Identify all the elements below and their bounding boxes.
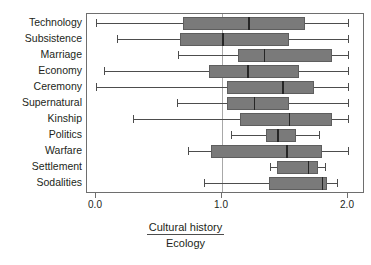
median-line: [282, 81, 284, 94]
box-iqr: [240, 113, 332, 126]
whisker-lower: [104, 71, 210, 72]
whisker-cap-lower: [177, 99, 178, 107]
boxplot-row-settlement: [87, 159, 363, 175]
whisker-upper: [332, 119, 348, 120]
whisker-cap-lower: [188, 147, 189, 155]
boxplot-row-supernatural: [87, 95, 363, 111]
category-label-subsistence: Subsistence: [0, 32, 82, 44]
boxplot-row-sodalities: [87, 175, 363, 191]
category-label-kinship: Kinship: [0, 112, 82, 124]
category-label-sodalities: Sodalities: [0, 176, 82, 188]
whisker-lower: [188, 151, 211, 152]
whisker-upper: [314, 87, 348, 88]
x-tick-label-1.0: 1.0: [214, 199, 228, 210]
whisker-cap-upper: [348, 99, 349, 107]
whisker-cap-upper: [348, 83, 349, 91]
category-label-ceremony: Ceremony: [0, 80, 82, 92]
x-tick-label-2.0: 2.0: [340, 199, 354, 210]
whisker-upper: [318, 167, 326, 168]
median-line: [308, 161, 310, 174]
median-line: [277, 129, 279, 142]
x-tick-0.0: [95, 193, 96, 198]
box-iqr: [227, 97, 289, 110]
whisker-lower: [178, 55, 238, 56]
median-line: [222, 33, 224, 46]
whisker-upper: [332, 55, 348, 56]
whisker-cap-lower: [178, 51, 179, 59]
axis-title-fraction: Cultural history Ecology: [147, 221, 224, 249]
whisker-cap-upper: [348, 35, 349, 43]
median-line: [247, 65, 249, 78]
category-label-politics: Politics: [0, 128, 82, 140]
box-iqr: [183, 17, 305, 30]
whisker-cap-upper: [348, 51, 349, 59]
whisker-cap-upper: [348, 147, 349, 155]
whisker-cap-lower: [96, 83, 97, 91]
whisker-upper: [305, 23, 348, 24]
whisker-cap-upper: [348, 19, 349, 27]
whisker-upper: [289, 103, 348, 104]
median-line: [286, 145, 288, 158]
boxplot-row-warfare: [87, 143, 363, 159]
boxplot-row-marriage: [87, 47, 363, 63]
median-line: [254, 97, 256, 110]
whisker-lower: [96, 23, 183, 24]
axis-title-denominator: Ecology: [147, 235, 224, 249]
box-iqr: [227, 81, 314, 94]
median-line: [322, 177, 324, 190]
median-line: [289, 113, 291, 126]
whisker-cap-upper: [348, 115, 349, 123]
x-tick-2.0: [347, 193, 348, 198]
whisker-cap-upper: [325, 163, 326, 171]
x-axis-title: Cultural history Ecology: [0, 221, 371, 251]
whisker-upper: [327, 183, 337, 184]
boxplot-row-subsistence: [87, 31, 363, 47]
category-label-warfare: Warfare: [0, 144, 82, 156]
whisker-upper: [296, 135, 319, 136]
whisker-cap-lower: [270, 163, 271, 171]
whisker-lower: [270, 167, 278, 168]
x-tick-label-0.0: 0.0: [88, 199, 102, 210]
box-iqr: [209, 65, 298, 78]
x-tick-1.0: [221, 193, 222, 198]
category-axis-labels: TechnologySubsistenceMarriageEconomyCere…: [0, 14, 82, 190]
boxplot-row-politics: [87, 127, 363, 143]
box-iqr: [238, 49, 331, 62]
whisker-cap-lower: [133, 115, 134, 123]
whisker-cap-lower: [117, 35, 118, 43]
whisker-cap-lower: [96, 19, 97, 27]
whisker-cap-lower: [104, 67, 105, 75]
whisker-lower: [96, 87, 227, 88]
box-iqr: [211, 145, 322, 158]
whisker-upper: [289, 39, 348, 40]
box-iqr: [269, 177, 327, 190]
whisker-cap-lower: [204, 179, 205, 187]
boxplot-row-economy: [87, 63, 363, 79]
category-label-technology: Technology: [0, 16, 82, 28]
boxplot-row-ceremony: [87, 79, 363, 95]
whisker-cap-upper: [337, 179, 338, 187]
whisker-lower: [177, 103, 227, 104]
boxplot-figure: TechnologySubsistenceMarriageEconomyCere…: [0, 0, 371, 265]
plot-area: [86, 13, 364, 193]
whisker-lower: [133, 119, 240, 120]
category-label-marriage: Marriage: [0, 48, 82, 60]
category-label-economy: Economy: [0, 64, 82, 76]
whisker-upper: [322, 151, 348, 152]
whisker-lower: [231, 135, 266, 136]
category-label-supernatural: Supernatural: [0, 96, 82, 108]
category-label-settlement: Settlement: [0, 160, 82, 172]
box-iqr: [180, 33, 288, 46]
box-iqr: [266, 129, 296, 142]
whisker-lower: [117, 39, 180, 40]
box-iqr: [277, 161, 317, 174]
median-line: [248, 17, 250, 30]
x-axis: 0.01.02.0: [86, 193, 364, 219]
whisker-lower: [204, 183, 268, 184]
axis-title-numerator: Cultural history: [147, 221, 224, 235]
whisker-cap-lower: [231, 131, 232, 139]
boxplot-row-technology: [87, 15, 363, 31]
whisker-upper: [299, 71, 348, 72]
median-line: [264, 49, 266, 62]
whisker-cap-upper: [319, 131, 320, 139]
